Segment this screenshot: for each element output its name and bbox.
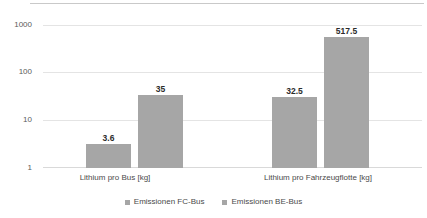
legend-item-fc-bus[interactable]: Emissionen FC-Bus bbox=[125, 198, 205, 206]
plot-area: 1000 100 10 1 3.6 35 32.5 517.5 bbox=[43, 25, 422, 168]
bar-value-label-fc-bus-pro-bus: 3.6 bbox=[86, 134, 131, 143]
bar-value-label-be-bus-pro-bus: 35 bbox=[138, 85, 183, 94]
y-axis-tick-1: 1 bbox=[0, 164, 32, 172]
bar-value-label-fc-bus-flotte: 32.5 bbox=[272, 87, 317, 96]
bar-fc-bus-flotte bbox=[272, 97, 317, 168]
bar-be-bus-pro-bus bbox=[138, 95, 183, 168]
log-scale-grouped-bar-chart: 1000 100 10 1 3.6 35 32.5 517.5 Lithium … bbox=[0, 0, 427, 218]
y-axis-tick-1000: 1000 bbox=[0, 21, 32, 29]
bar-fc-bus-pro-bus bbox=[86, 144, 131, 168]
legend-swatch-icon-fc-bus bbox=[125, 200, 130, 205]
legend-item-be-bus[interactable]: Emissionen BE-Bus bbox=[222, 198, 302, 206]
legend-swatch-icon-be-bus bbox=[222, 200, 227, 205]
bar-value-label-be-bus-flotte: 517.5 bbox=[324, 27, 369, 36]
bar-be-bus-flotte bbox=[324, 37, 369, 168]
legend-label-fc-bus: Emissionen FC-Bus bbox=[134, 198, 205, 206]
legend-label-be-bus: Emissionen BE-Bus bbox=[231, 198, 302, 206]
x-axis-category-label-flotte: Lithium pro Fahrzeugflotte [kg] bbox=[233, 174, 403, 182]
y-axis-tick-10: 10 bbox=[0, 116, 32, 124]
chart-top-border bbox=[30, 3, 424, 4]
y-axis-tick-100: 100 bbox=[0, 68, 32, 76]
chart-legend: Emissionen FC-Bus Emissionen BE-Bus bbox=[0, 198, 427, 206]
x-axis-category-label-pro-bus: Lithium pro Bus [kg] bbox=[55, 174, 175, 182]
